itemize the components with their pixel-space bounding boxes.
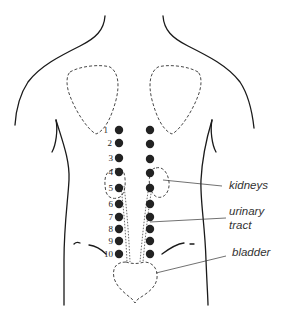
point-number-9: 9 — [109, 236, 114, 246]
point-numbers: 1 2 3 4 5 6 7 8 9 10 — [104, 125, 114, 259]
point-3-left — [115, 154, 123, 162]
point-number-3: 3 — [109, 153, 114, 163]
point-7-left — [115, 213, 123, 221]
points-right-column — [146, 126, 154, 258]
body-outline — [15, 16, 254, 305]
shoulder-blade-left — [67, 66, 118, 134]
neck-shoulder-right — [163, 16, 254, 128]
point-8-left — [115, 225, 123, 233]
point-4-left — [115, 168, 123, 176]
leader-kidneys — [163, 180, 222, 186]
point-number-5: 5 — [109, 183, 114, 193]
neck-shoulder-left — [15, 16, 105, 125]
points-left-column — [115, 126, 123, 258]
arm-inner-left — [52, 120, 57, 152]
urinary-tract — [121, 186, 152, 262]
torso-side-right — [201, 120, 212, 305]
hip-mark-left — [74, 242, 80, 244]
point-number-10: 10 — [104, 249, 114, 259]
point-6-left — [115, 200, 123, 208]
torso-side-left — [56, 120, 69, 305]
leader-urinary-tract — [150, 218, 226, 222]
bladder-shape — [114, 262, 158, 303]
point-10-left — [115, 250, 123, 258]
label-bladder: bladder — [232, 246, 272, 258]
point-2-left — [115, 139, 123, 147]
leader-bladder — [156, 256, 226, 273]
point-number-2: 2 — [108, 138, 113, 148]
leader-lines — [150, 180, 226, 273]
point-9-left — [115, 237, 123, 245]
point-number-6: 6 — [109, 199, 114, 209]
point-number-8: 8 — [109, 224, 114, 234]
hip-line-right — [162, 243, 184, 254]
point-number-4: 4 — [109, 167, 114, 177]
shoulder-blade-right — [150, 66, 201, 134]
point-1-left — [115, 126, 123, 134]
label-urinary: urinary — [229, 205, 265, 217]
point-number-1: 1 — [104, 125, 109, 135]
label-tract: tract — [229, 219, 252, 231]
torso-diagram: 1 2 3 4 5 6 7 8 9 10 kidneys urinary tra… — [0, 0, 294, 332]
point-5-left — [115, 184, 123, 192]
label-kidneys: kidneys — [229, 179, 268, 191]
arm-inner-right — [211, 120, 216, 152]
point-number-7: 7 — [109, 212, 114, 222]
